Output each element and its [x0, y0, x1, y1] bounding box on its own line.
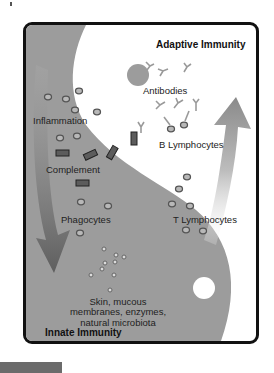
diagram-artwork: [26, 25, 256, 341]
page-mark: [10, 2, 12, 6]
phagocytes-label: Phagocytes: [61, 215, 111, 225]
b-lymphocytes-label: B Lymphocytes: [159, 140, 224, 150]
immunity-diagram-frame: Adaptive Immunity Antibodies B Lymphocyt…: [23, 22, 259, 344]
caption-bar: [0, 362, 62, 373]
barriers-label: Skin, mucous membranes, enzymes, natural…: [58, 297, 178, 328]
inflammation-label: Inflammation: [33, 116, 87, 126]
adaptive-immunity-title: Adaptive Immunity: [156, 39, 245, 50]
antibodies-label: Antibodies: [143, 86, 187, 96]
complement-label: Complement: [46, 165, 100, 175]
white-circle: [193, 277, 215, 299]
t-lymphocytes-label: T Lymphocytes: [173, 215, 237, 225]
gray-circle: [127, 64, 149, 86]
innate-immunity-title: Innate Immunity: [45, 327, 122, 338]
